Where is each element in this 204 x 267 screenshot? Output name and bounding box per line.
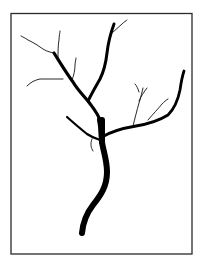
trunk-upper xyxy=(100,120,102,142)
drawing-canvas xyxy=(0,0,204,267)
